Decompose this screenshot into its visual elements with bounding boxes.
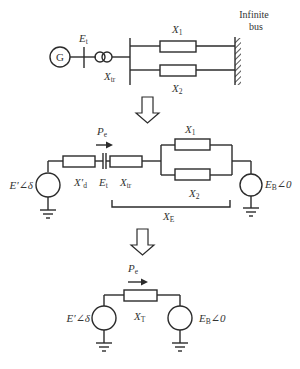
- power-flow-arrow-icon: [128, 279, 148, 286]
- transformer-reactance-label: Xtr: [119, 176, 132, 190]
- source-right-icon: [168, 306, 192, 330]
- power-system-reduction-diagram: G Et Xtr X1 X2 Infinite bus: [0, 0, 300, 369]
- terminal-voltage-label: Et: [98, 176, 109, 190]
- infinite-bus-label-1: Infinite: [239, 9, 269, 20]
- line2-label: X2: [188, 187, 200, 201]
- line1-label: X1: [184, 123, 196, 137]
- transient-reactance-label: X′d: [73, 176, 87, 190]
- transient-reactance: [63, 156, 95, 167]
- power-flow-label: Pe: [127, 262, 139, 276]
- generator-icon: G: [50, 47, 70, 67]
- source-right-label: EB∠0: [264, 178, 292, 192]
- source-left-label: E′∠δ: [66, 312, 91, 324]
- power-flow-arrow-icon: [96, 142, 113, 149]
- one-line-diagram: G Et Xtr X1 X2 Infinite bus: [50, 9, 269, 96]
- source-left-icon: [92, 306, 116, 330]
- reduction-arrow-icon: [131, 229, 154, 255]
- ground-icon: [243, 208, 259, 216]
- total-reactance: [124, 290, 157, 301]
- equivalent-reactance-bracket: [112, 200, 230, 207]
- source-left-label: E′∠δ: [9, 179, 34, 191]
- infinite-bus-icon: [235, 37, 241, 85]
- source-right-label: EB∠0: [198, 312, 226, 326]
- equivalent-reactance-label: XE: [162, 210, 175, 224]
- generator-label: G: [56, 51, 64, 63]
- line1-reactance: [160, 41, 196, 52]
- transformer-icon: [95, 52, 112, 62]
- ground-icon: [172, 343, 188, 351]
- transformer-reactance-label: Xtr: [103, 70, 116, 84]
- reduction-arrow-icon: [136, 97, 159, 123]
- source-left-icon: [36, 173, 60, 197]
- line1-reactance: [175, 139, 210, 150]
- line1-label: X1: [171, 23, 183, 37]
- reduced-circuit: Pe E′∠δ XT EB∠0: [66, 262, 226, 351]
- line2-reactance: [175, 169, 210, 180]
- terminal-voltage-label: Et: [78, 32, 89, 46]
- line2-reactance: [160, 65, 196, 76]
- transformer-reactance: [110, 156, 142, 167]
- ground-icon: [40, 210, 56, 218]
- equivalent-circuit: Pe E′∠δ X′d Et Xtr X1: [9, 123, 292, 224]
- line2-label: X2: [171, 82, 183, 96]
- source-right-icon: [240, 174, 262, 196]
- power-flow-label: Pe: [96, 125, 108, 139]
- infinite-bus-label-2: bus: [249, 21, 263, 32]
- total-reactance-label: XT: [133, 310, 146, 324]
- ground-icon: [96, 343, 112, 351]
